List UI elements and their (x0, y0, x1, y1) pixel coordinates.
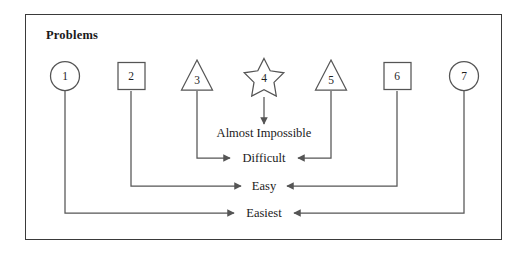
node-1-label: 1 (50, 70, 80, 82)
node-4-label: 4 (249, 72, 279, 84)
conn-7-to-easiest-line (294, 91, 464, 213)
level-easy-label: Easy (247, 179, 281, 194)
node-3-label: 3 (182, 74, 212, 86)
conn-1-to-easiest-line (65, 91, 234, 213)
node-5-label: 5 (316, 74, 346, 86)
level-almost-impossible-label: Almost Impossible (212, 126, 317, 141)
conn-5-to-difficult-line (298, 91, 331, 158)
level-difficult-label: Difficult (238, 151, 291, 166)
node-7-label: 7 (449, 70, 479, 82)
diagram-canvas: Problems (0, 0, 527, 253)
node-6-label: 6 (382, 70, 412, 82)
node-2-label: 2 (116, 70, 146, 82)
conn-3-to-difficult-line (197, 91, 230, 158)
level-easiest-label: Easiest (241, 206, 286, 221)
